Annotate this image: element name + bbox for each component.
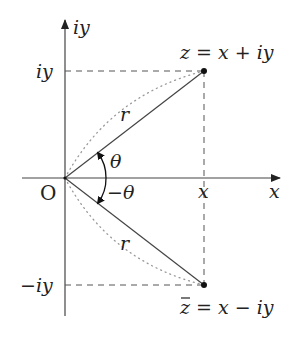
zbar-label: z = x − iy — [179, 296, 274, 318]
y-tick-pos-label: iy — [36, 60, 53, 82]
theta-label: θ — [110, 150, 122, 172]
x-tick-label: x — [198, 180, 209, 202]
vector-r-lower — [65, 178, 204, 285]
point-zbar — [201, 282, 207, 288]
theta-arc-icon — [98, 153, 106, 178]
y-axis-label: iy — [73, 16, 90, 38]
diagram-canvas: iy iy −iy O x x r r θ −θ z = x + iy z = … — [0, 0, 302, 346]
origin-label: O — [40, 181, 56, 205]
z-label: z = x + iy — [179, 41, 274, 63]
r-lower-label: r — [120, 232, 131, 254]
y-tick-neg-label: −iy — [20, 274, 53, 296]
neg-theta-arc-icon — [98, 178, 106, 203]
complex-conjugate-diagram: iy iy −iy O x x r r θ −θ z = x + iy z = … — [0, 0, 302, 346]
r-upper-label: r — [120, 103, 131, 125]
point-z — [201, 68, 207, 74]
vector-r-upper — [65, 71, 204, 178]
origin-point — [63, 176, 66, 179]
x-axis-label: x — [269, 180, 280, 202]
neg-theta-label: −θ — [107, 181, 135, 203]
